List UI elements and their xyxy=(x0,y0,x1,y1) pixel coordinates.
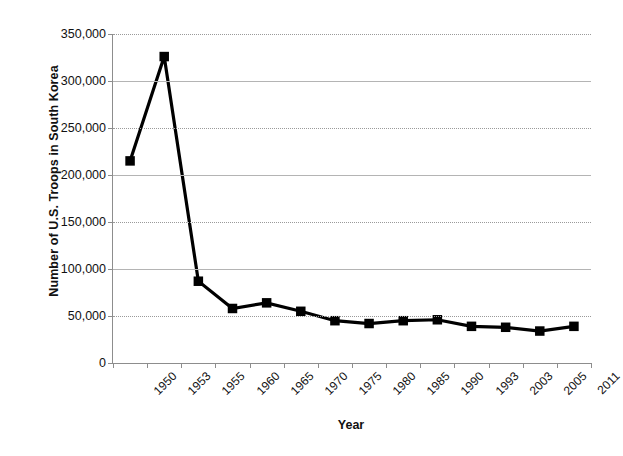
data-point-marker xyxy=(535,326,545,336)
y-axis-tick-labels: 050,000100,000150,000200,000250,000300,0… xyxy=(32,0,106,456)
gridline xyxy=(113,316,591,317)
x-axis-tick-label: 1960 xyxy=(253,369,282,398)
data-point-marker xyxy=(228,304,238,314)
x-axis-tick-label: 1993 xyxy=(492,369,521,398)
y-axis-tick-label: 300,000 xyxy=(34,74,106,88)
x-axis-tick-label: 1965 xyxy=(287,369,316,398)
x-axis-tick-label: 2003 xyxy=(526,369,555,398)
y-axis-tick-label: 0 xyxy=(34,356,106,370)
data-point-marker xyxy=(125,156,135,166)
y-axis-tick xyxy=(108,128,113,129)
x-axis-tick-label: 1970 xyxy=(322,369,351,398)
y-axis-tick-label: 100,000 xyxy=(34,262,106,276)
y-axis-tick-label: 150,000 xyxy=(34,215,106,229)
y-axis-tick xyxy=(108,34,113,35)
y-axis-tick-label: 350,000 xyxy=(34,27,106,41)
x-axis-tick xyxy=(591,363,592,368)
x-axis-tick-label: 1990 xyxy=(458,369,487,398)
x-axis-tick-labels: 1950195319551960196519701975198019851990… xyxy=(112,363,590,423)
x-axis-tick-label: 2011 xyxy=(594,369,622,397)
data-point-marker xyxy=(398,316,408,326)
gridline xyxy=(113,34,591,35)
data-point-marker xyxy=(159,52,169,62)
x-axis-tick-label: 1950 xyxy=(151,369,180,398)
y-axis-tick-label: 200,000 xyxy=(34,168,106,182)
data-point-marker xyxy=(364,319,374,329)
x-axis-tick-label: 2005 xyxy=(561,369,590,398)
data-point-marker xyxy=(467,322,477,332)
y-axis-tick xyxy=(108,269,113,270)
data-point-marker xyxy=(569,322,579,332)
y-axis-tick-label: 250,000 xyxy=(34,121,106,135)
data-point-marker xyxy=(296,307,306,317)
x-axis-tick-label: 1985 xyxy=(424,369,453,398)
y-axis-tick xyxy=(108,81,113,82)
data-point-marker xyxy=(262,298,272,308)
x-axis-title: Year xyxy=(112,418,590,432)
data-point-marker xyxy=(501,323,511,333)
y-axis-tick xyxy=(108,175,113,176)
data-point-marker xyxy=(194,276,204,286)
y-axis-tick xyxy=(108,222,113,223)
plot-area xyxy=(112,34,591,364)
x-axis-tick-label: 1980 xyxy=(390,369,419,398)
x-axis-tick-label: 1975 xyxy=(356,369,385,398)
gridline xyxy=(113,128,591,129)
x-axis-tick-label: 1955 xyxy=(219,369,248,398)
x-axis-tick-label: 1953 xyxy=(185,369,214,398)
y-axis-tick-label: 50,000 xyxy=(34,309,106,323)
data-series-line xyxy=(113,34,591,363)
gridline xyxy=(113,222,591,223)
data-point-marker xyxy=(330,316,340,326)
series-line xyxy=(130,57,574,331)
gridline xyxy=(113,269,591,270)
gridline xyxy=(113,81,591,82)
gridline xyxy=(113,175,591,176)
y-axis-tick xyxy=(108,316,113,317)
